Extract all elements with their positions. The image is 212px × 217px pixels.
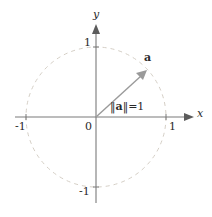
unit-circle-vector-figure: y x 1 -1 1 -1 0 a ‖a‖=1 (0, 0, 212, 217)
norm-value: 1 (137, 100, 144, 113)
x-axis (15, 113, 194, 121)
figure-canvas (0, 0, 212, 217)
x-axis-arrowhead (184, 113, 194, 121)
y-axis-arrowhead (92, 24, 100, 34)
vector-norm-annotation: ‖a‖=1 (110, 101, 144, 112)
x-tick-label-negative-one: -1 (15, 121, 26, 132)
vector-label-a: a (144, 52, 151, 63)
y-axis (92, 24, 100, 203)
x-axis-label: x (197, 108, 203, 119)
origin-label: 0 (85, 121, 92, 132)
y-tick-label-positive-one: 1 (84, 37, 91, 48)
x-tick-label-positive-one: 1 (169, 121, 176, 132)
y-tick-label-negative-one: -1 (79, 186, 90, 197)
y-axis-label: y (93, 9, 99, 20)
norm-equals-sign: = (128, 100, 137, 113)
norm-vector-symbol: a (116, 100, 123, 113)
